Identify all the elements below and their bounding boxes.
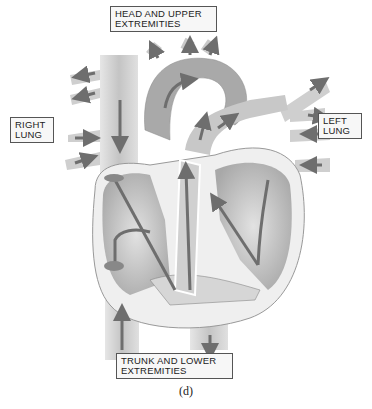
label-line: EXTREMITIES — [115, 19, 212, 29]
label-line: LUNG — [323, 126, 357, 136]
figure-caption: (d) — [0, 384, 372, 399]
label-head-upper-extremities: HEAD AND UPPER EXTREMITIES — [110, 6, 217, 32]
label-trunk-lower-extremities: TRUNK AND LOWER EXTREMITIES — [116, 353, 233, 379]
label-line: EXTREMITIES — [121, 366, 228, 376]
right-pulmonary-vessels — [65, 70, 100, 170]
label-right-lung: RIGHT LUNG — [10, 117, 54, 143]
label-left-lung: LEFT LUNG — [318, 113, 362, 139]
heart-diagram — [0, 0, 372, 409]
label-line: LUNG — [15, 130, 49, 140]
